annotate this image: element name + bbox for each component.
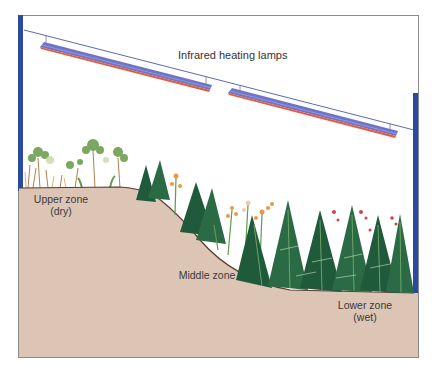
middle-zone-label: Middle zone <box>172 269 242 281</box>
lower-zone-label: Lower zone (wet) <box>330 299 400 323</box>
upper-zone-name: Upper zone <box>26 193 96 205</box>
title-label: Infrared heating lamps <box>178 49 287 61</box>
left-post <box>18 15 23 191</box>
right-post <box>413 93 418 295</box>
upper-zone-condition: (dry) <box>26 205 96 217</box>
lower-zone-name: Lower zone <box>330 299 400 311</box>
upper-zone-label: Upper zone (dry) <box>26 193 96 217</box>
greenhouse-diagram: Infrared heating lamps Upper zone (dry) … <box>0 0 432 366</box>
lower-zone-condition: (wet) <box>330 311 400 323</box>
middle-zone-name: Middle zone <box>172 269 242 281</box>
